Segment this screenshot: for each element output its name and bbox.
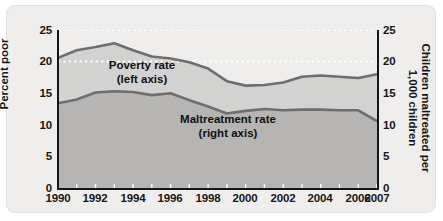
x-axis-tick-1996: 1996 xyxy=(150,192,190,204)
chart-figure: 25 20 15 10 5 0 25 20 15 10 5 0 Percent … xyxy=(0,0,443,221)
poverty-rate-annotation-line1: Poverty rate xyxy=(109,59,175,71)
y2-axis-tick-10: 10 xyxy=(383,119,405,131)
y2-axis-title-line2: 1,000 children xyxy=(407,70,419,147)
x-axis-line xyxy=(57,188,379,190)
x-axis-tick-2004: 2004 xyxy=(300,192,340,204)
y2-axis-tick-25: 25 xyxy=(383,24,405,36)
y2-axis-line xyxy=(377,30,379,190)
x-axis-tick-2002: 2002 xyxy=(263,192,303,204)
y-axis-title: Percent poor xyxy=(0,39,10,110)
x-axis-tick-1998: 1998 xyxy=(188,192,228,204)
y2-axis-title: Children maltreated per 1,000 children xyxy=(404,34,434,184)
plot-area xyxy=(58,30,377,188)
y2-axis-tick-20: 20 xyxy=(383,55,405,67)
poverty-rate-annotation-line2: (left axis) xyxy=(117,73,168,85)
maltreatment-rate-annotation-line1: Maltreatment rate xyxy=(180,113,276,125)
y-axis-line xyxy=(57,30,59,190)
maltreatment-rate-annotation-line2: (right axis) xyxy=(199,127,258,139)
x-axis-tick-2000: 2000 xyxy=(225,192,265,204)
x-axis-tick-1990: 1990 xyxy=(38,192,78,204)
maltreatment-rate-annotation: Maltreatment rate (right axis) xyxy=(153,112,303,140)
x-axis-tick-1994: 1994 xyxy=(113,192,153,204)
y2-axis-tick-5: 5 xyxy=(383,150,405,162)
poverty-rate-annotation: Poverty rate (left axis) xyxy=(82,58,202,86)
y-axis-tick-25: 25 xyxy=(30,24,52,36)
x-axis-tick-1992: 1992 xyxy=(75,192,115,204)
y-axis-tick-20: 20 xyxy=(30,55,52,67)
chart-plot-svg xyxy=(58,30,377,188)
y-axis-tick-5: 5 xyxy=(30,150,52,162)
y2-axis-tick-15: 15 xyxy=(383,87,405,99)
y2-axis-title-line1: Children maltreated per xyxy=(420,43,432,172)
y-axis-tick-10: 10 xyxy=(30,119,52,131)
y-axis-tick-15: 15 xyxy=(30,87,52,99)
x-axis-tick-2007: 2007 xyxy=(357,192,397,204)
